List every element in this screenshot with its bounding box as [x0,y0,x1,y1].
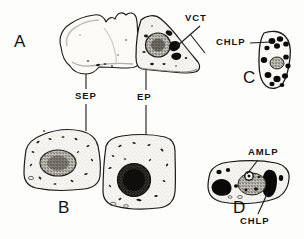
label-chlp-d: CHLP [240,215,269,226]
panel-b-cell [24,130,100,191]
panel-letter-a: A [14,32,25,52]
label-amlp: AMLP [248,146,279,157]
panel-d-cell [208,161,289,204]
panel-letter-b: B [58,198,69,218]
label-ep: EP [137,91,151,102]
cell-illustration [0,0,304,239]
panel-letter-c: C [243,68,255,88]
label-vct: VCT [185,12,207,23]
panel-a-right-cell [136,16,200,73]
panel-ep-centre-cell [103,135,175,209]
vct-leader-line-2 [190,34,205,53]
label-chlp-c: CHLP [216,36,245,47]
panel-c-cell [259,31,291,88]
panel-a-left-cell [60,13,140,74]
figure-canvas: A B C D SEP EP VCT CHLP AMLP CHLP [0,0,304,239]
label-sep: SEP [75,90,97,101]
vct-leader-line [176,26,200,47]
